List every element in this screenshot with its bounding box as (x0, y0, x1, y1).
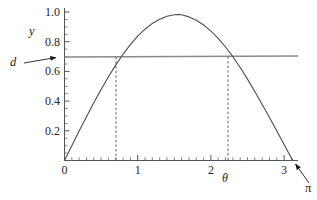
x-tick-label-3: 3 (272, 164, 296, 176)
d-annotation-arrow (24, 58, 56, 64)
y-tick-label-0.2: 0.2 (14, 125, 60, 137)
d-annotation-label: d (10, 56, 16, 69)
y-tick-label-0.6: 0.6 (14, 65, 60, 77)
x-axis-title: θ (222, 172, 228, 184)
x-tick-label-2: 2 (199, 164, 223, 176)
x-tick-label-0: 0 (53, 164, 77, 176)
y-tick-label-0.8: 0.8 (14, 36, 60, 48)
y-axis-title: y (29, 25, 35, 38)
level-line-d (65, 56, 299, 57)
chart-figure: 1.0 0.8 0.6 0.4 0.2 0 1 2 3 y θ d π (0, 0, 317, 200)
y-tick-label-0.4: 0.4 (14, 95, 60, 107)
x-tick-label-1: 1 (126, 164, 150, 176)
pi-annotation-label: π (305, 182, 311, 195)
sine-curve (65, 15, 294, 161)
y-axis-major-ticks (65, 12, 70, 131)
y-tick-label-1.0: 1.0 (14, 6, 60, 18)
